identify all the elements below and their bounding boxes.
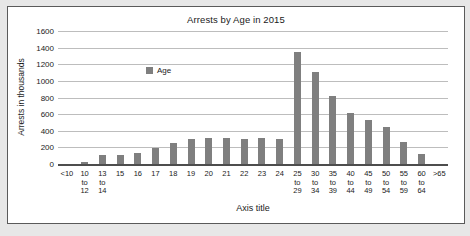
x-tick-label: 24: [271, 170, 289, 196]
bar-cell: [111, 32, 129, 165]
y-tick-label-600: 600: [12, 111, 54, 119]
x-tick-label: 35 to 39: [324, 170, 342, 196]
bar-cell: [235, 32, 253, 165]
y-tick-label-1400: 1400: [12, 45, 54, 53]
x-tick-label: 17: [147, 170, 165, 196]
bar-55-to-59: [400, 142, 407, 165]
y-tick-label-200: 200: [12, 144, 54, 152]
bar-45-to-49: [365, 120, 372, 165]
bar-cell: [182, 32, 200, 165]
x-tick-label: 13 to 14: [93, 170, 111, 196]
bar-30-to-34: [312, 72, 319, 165]
x-tick-label: 30 to 34: [306, 170, 324, 196]
bar-35-to-39: [329, 96, 336, 165]
bar-20: [205, 138, 212, 165]
x-tick-label: >65: [430, 170, 448, 196]
y-tick-label-1200: 1200: [12, 61, 54, 69]
bars-row: [58, 32, 448, 165]
bar-19: [188, 139, 195, 165]
chart-frame: Arrests by Age in 2015 Arrests in thousa…: [7, 6, 465, 224]
x-axis-tick-labels: <1010 to 1213 to 14151617181920212223242…: [58, 170, 448, 196]
x-tick-label: 23: [253, 170, 271, 196]
bar-17: [152, 148, 159, 165]
bar-cell: [58, 32, 76, 165]
x-tick-label: 10 to 12: [76, 170, 94, 196]
x-tick-label: 55 to 59: [395, 170, 413, 196]
page-background: { "colors": { "bar": "#7f7f7f", "gridlin…: [0, 0, 470, 236]
x-tick-label: 45 to 49: [359, 170, 377, 196]
x-axis-line: [58, 164, 448, 166]
bar-cell: [377, 32, 395, 165]
chart-title: Arrests by Age in 2015: [8, 14, 464, 25]
x-tick-label: 21: [218, 170, 236, 196]
bar-23: [258, 138, 265, 165]
y-tick-label-1000: 1000: [12, 78, 54, 86]
bar-cell: [218, 32, 236, 165]
bar-cell: [430, 32, 448, 165]
y-tick-label-400: 400: [12, 128, 54, 136]
bar-cell: [324, 32, 342, 165]
bar-18: [170, 143, 177, 165]
y-tick-label-1600: 1600: [12, 28, 54, 36]
bar-21: [223, 138, 230, 165]
bar-cell: [129, 32, 147, 165]
bar-50-to-54: [383, 127, 390, 165]
plot-area: Age: [58, 32, 448, 165]
bar-24: [276, 139, 283, 165]
bar-cell: [147, 32, 165, 165]
x-tick-label: 60 to 64: [413, 170, 431, 196]
legend-label: Age: [157, 66, 171, 75]
y-axis-tick-labels: 02004006008001000120014001600: [12, 32, 54, 165]
bar-cell: [200, 32, 218, 165]
legend-swatch-icon: [146, 67, 153, 74]
bar-cell: [289, 32, 307, 165]
bar-cell: [342, 32, 360, 165]
x-tick-label: 15: [111, 170, 129, 196]
bar-cell: [395, 32, 413, 165]
bar-cell: [76, 32, 94, 165]
bar-cell: [306, 32, 324, 165]
bar-25-to-29: [294, 52, 301, 165]
bar-cell: [359, 32, 377, 165]
x-tick-label: 40 to 44: [342, 170, 360, 196]
x-tick-label: 25 to 29: [289, 170, 307, 196]
x-axis-title: Axis title: [58, 203, 448, 213]
y-tick-label-0: 0: [12, 161, 54, 169]
bar-40-to-44: [347, 113, 354, 165]
x-tick-label: 22: [235, 170, 253, 196]
x-tick-label: 19: [182, 170, 200, 196]
y-tick-label-800: 800: [12, 95, 54, 103]
bar-cell: [413, 32, 431, 165]
bar-cell: [93, 32, 111, 165]
bar-22: [241, 139, 248, 165]
x-tick-label: 20: [200, 170, 218, 196]
x-tick-label: 16: [129, 170, 147, 196]
x-tick-label: 50 to 54: [377, 170, 395, 196]
bar-cell: [271, 32, 289, 165]
x-tick-label: 18: [164, 170, 182, 196]
x-tick-label: <10: [58, 170, 76, 196]
bar-cell: [253, 32, 271, 165]
legend: Age: [146, 66, 171, 75]
bar-cell: [164, 32, 182, 165]
